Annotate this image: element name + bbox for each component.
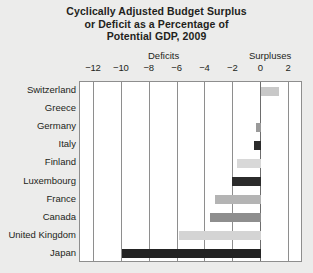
bar — [215, 195, 261, 204]
gridline — [288, 82, 289, 261]
chart-figure: Cyclically Adjusted Budget Surplus or De… — [0, 0, 313, 273]
bar — [210, 213, 262, 222]
plot-area — [79, 81, 302, 262]
gridline — [121, 82, 122, 261]
category-label: Canada — [43, 212, 76, 222]
bar — [122, 249, 261, 258]
category-label: Switzerland — [27, 85, 76, 95]
category-label: France — [46, 194, 76, 204]
gridline — [177, 82, 178, 261]
bar — [261, 87, 279, 96]
gridline — [149, 82, 150, 261]
bar — [237, 159, 261, 168]
bar — [179, 231, 261, 240]
chart-title-line-2: or Deficit as a Percentage of — [0, 18, 313, 31]
chart-title: Cyclically Adjusted Budget Surplus or De… — [0, 5, 313, 43]
category-label: Italy — [59, 139, 76, 149]
chart-title-line-3: Potential GDP, 2009 — [0, 30, 313, 43]
x-tick-label: −4 — [199, 62, 209, 73]
surpluses-header: Surpluses — [249, 50, 291, 61]
x-tick-label: −2 — [227, 62, 237, 73]
deficits-header: Deficits — [148, 50, 179, 61]
x-tick-label: 0 — [258, 62, 263, 73]
category-label: Germany — [37, 121, 76, 131]
x-tick-label: 2 — [286, 62, 291, 73]
category-label: Luxembourg — [23, 176, 76, 186]
category-label: United Kingdom — [8, 230, 76, 240]
bar — [256, 123, 262, 132]
gridline — [93, 82, 94, 261]
chart-title-line-1: Cyclically Adjusted Budget Surplus — [0, 5, 313, 18]
category-label: Greece — [45, 103, 76, 113]
category-label: Finland — [45, 157, 76, 167]
x-tick-label: −8 — [143, 62, 153, 73]
bar — [232, 177, 261, 186]
x-tick-label: −6 — [171, 62, 181, 73]
x-tick-label: −10 — [113, 62, 129, 73]
bar — [254, 141, 261, 150]
x-tick-label: −12 — [85, 62, 101, 73]
category-label: Japan — [50, 248, 76, 258]
